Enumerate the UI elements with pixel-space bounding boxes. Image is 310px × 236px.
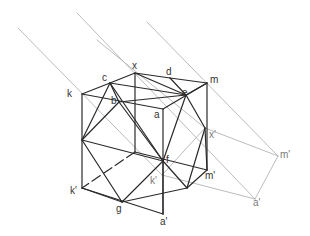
vertex-label: b — [111, 96, 117, 106]
vertex-label: x — [132, 61, 137, 71]
edge-kp-g — [82, 188, 122, 202]
edge-g-R — [122, 188, 187, 202]
vertex-label: f — [166, 155, 169, 165]
vertex-label: e — [182, 88, 188, 98]
vertex-label: m' — [280, 150, 290, 160]
edge-d-m — [170, 78, 207, 83]
vertex-label: d — [166, 67, 172, 77]
edge-f-R — [163, 161, 187, 188]
edge-c-L — [82, 83, 110, 140]
edge-e-xp — [186, 95, 205, 128]
vertex-label: k — [67, 89, 72, 99]
vertex-label: k' — [150, 176, 157, 186]
vertex-label: a' — [253, 198, 260, 208]
vertex-label: a — [154, 110, 160, 120]
solid-edges — [82, 73, 207, 214]
hidden-edge-H-kp — [82, 152, 135, 188]
vertex-label: a' — [160, 217, 167, 227]
hidden-edges — [82, 152, 135, 188]
edge-c-e — [110, 83, 186, 95]
vertex-label: m — [210, 75, 218, 85]
vertex-label: c — [102, 73, 107, 83]
edge-e-f — [163, 95, 186, 161]
vertex-label: k' — [70, 186, 77, 196]
edge-b-L — [82, 102, 119, 140]
vertex-label: m' — [205, 171, 215, 181]
vertex-label: g — [116, 204, 122, 214]
edge-H-mp — [135, 152, 207, 170]
edge-e-m — [186, 83, 207, 95]
vertex-label: x' — [209, 130, 216, 140]
construction-line — [255, 156, 278, 199]
edge-c-x — [110, 73, 135, 83]
